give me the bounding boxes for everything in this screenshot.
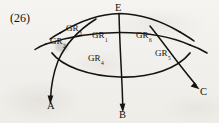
- curve-arc-middle-right-tail: [190, 45, 207, 53]
- region-label-gr-5: GR5: [155, 49, 171, 58]
- curve-arc-middle: [46, 33, 190, 46]
- figure-index-label: (26): [10, 12, 30, 24]
- region-label-sub: 5: [168, 55, 171, 61]
- figure-container: (26) E A B C GR3 GR2 GR1 GR6 GR4 GR5: [0, 0, 219, 123]
- region-label-sub: 4: [101, 60, 104, 66]
- region-label-sub: 1: [105, 37, 108, 43]
- region-label-gr-1: GR1: [92, 31, 108, 40]
- region-label-base: GR: [136, 30, 149, 40]
- region-label-base: GR: [50, 36, 63, 46]
- region-label-base: GR: [92, 30, 105, 40]
- arrowhead-C: [191, 82, 200, 89]
- region-label-base: GR: [66, 23, 79, 33]
- curve-arc-middle-left-tail: [35, 44, 46, 50]
- region-label-base: GR: [88, 53, 101, 63]
- region-label-sub: 6: [149, 37, 152, 43]
- region-label-base: GR: [155, 48, 168, 58]
- node-label-A: A: [47, 101, 55, 112]
- region-label-sub: 2: [63, 43, 66, 49]
- region-label-gr-6: GR6: [136, 31, 152, 40]
- node-label-C: C: [200, 87, 207, 98]
- region-label-gr-2: GR2: [50, 37, 66, 46]
- curve-ray-to-B: [119, 14, 123, 107]
- node-label-E: E: [115, 3, 121, 14]
- region-label-sub: 3: [79, 30, 82, 36]
- region-label-gr-3: GR3: [66, 24, 82, 33]
- region-label-gr-4: GR4: [88, 54, 104, 63]
- node-label-B: B: [119, 110, 126, 121]
- curve-arc-upper-right-tail: [180, 32, 194, 41]
- diagram-canvas: [0, 0, 219, 123]
